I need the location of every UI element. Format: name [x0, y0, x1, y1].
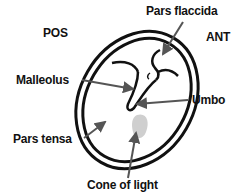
posterior-orientation-label: POS — [43, 26, 68, 40]
pars-tensa-arrow — [84, 122, 105, 138]
lateral-process-mark — [148, 73, 150, 79]
cone-of-light-arrow — [128, 133, 136, 178]
pars-flaccida-arrow — [163, 22, 183, 54]
malleolar-fold-anterior — [158, 70, 178, 76]
anterior-orientation-label: ANT — [206, 30, 230, 44]
pars-flaccida-label: Pars flaccida — [146, 4, 217, 18]
pars-tensa-label: Pars tensa — [13, 132, 72, 146]
annulus-inner-ring — [61, 19, 213, 182]
cone-of-light-shape — [132, 114, 148, 138]
malleolar-fold-posterior — [112, 62, 138, 72]
malleolus-label: Malleolus — [16, 73, 69, 87]
umbo-arrow — [137, 100, 188, 104]
pars-flaccida-outline — [152, 50, 160, 80]
cone-of-light-label: Cone of light — [87, 178, 158, 192]
umbo-label: Umbo — [192, 93, 225, 107]
